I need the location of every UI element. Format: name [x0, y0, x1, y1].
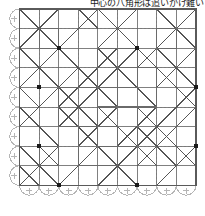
diagram-canvas: 中心の八角形は追いかけ難い: [0, 0, 205, 216]
vertex-dot: [57, 183, 61, 187]
diagonal-down-left: [98, 166, 118, 186]
diagonal-down-right: [176, 68, 196, 88]
vertex-dot: [194, 144, 198, 148]
diagonal-down-left: [157, 166, 177, 186]
diagonal-down-right: [20, 87, 40, 107]
vertex-dot: [194, 85, 198, 89]
diagonal-line-group: [20, 9, 196, 185]
vertex-dot: [57, 46, 61, 50]
vertex-dot: [135, 46, 139, 50]
vertex-dot: [37, 144, 41, 148]
geometric-tiling-figure: [0, 0, 205, 216]
vertex-dot: [37, 85, 41, 89]
vertex-dot: [135, 183, 139, 187]
